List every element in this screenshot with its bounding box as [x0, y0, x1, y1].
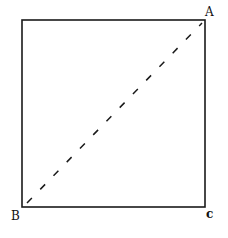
vertex-label-b: B [11, 210, 20, 222]
vertex-label-c: c [206, 208, 213, 220]
square-diagram [0, 0, 228, 238]
vertex-label-a: A [205, 6, 214, 18]
dashed-diagonal-b-to-a [27, 23, 202, 203]
square-outline [22, 20, 205, 207]
